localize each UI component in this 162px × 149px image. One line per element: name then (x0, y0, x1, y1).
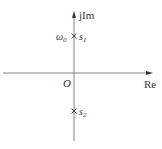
imaginary-axis-arrow-icon (72, 11, 76, 18)
imaginary-axis-label: jIm (78, 9, 95, 21)
omega0-label: ω0 (56, 31, 67, 44)
pole-s2-label: s2 (79, 106, 87, 119)
origin-label: O (63, 77, 71, 89)
s-plane-diagram: jIm Re O ω0 s1 s2 (0, 0, 162, 149)
real-axis-arrow-icon (146, 71, 153, 75)
real-axis-label: Re (144, 78, 156, 90)
pole-s1-label: s1 (79, 31, 86, 44)
